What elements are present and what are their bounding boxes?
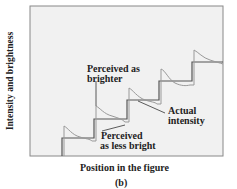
annotation-actual-line2: intensity — [168, 116, 205, 126]
annotation-less-bright: Perceived as less bright — [100, 131, 156, 151]
annotation-brighter: Perceived as brighter — [87, 64, 140, 84]
y-axis-label: Intensity and brightness — [5, 31, 15, 131]
annotation-less-bright-line2: as less bright — [100, 141, 156, 151]
annotation-brighter-line2: brighter — [87, 74, 140, 84]
mach-band-diagram — [0, 0, 237, 189]
x-axis-label: Position in the figure — [80, 163, 169, 173]
annotation-actual: Actual intensity — [168, 106, 205, 126]
figure-caption: (b) — [115, 178, 127, 188]
